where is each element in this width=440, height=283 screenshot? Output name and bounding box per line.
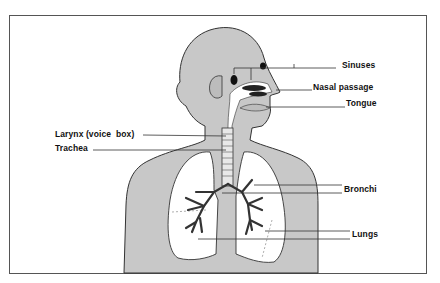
nasal-turbinate — [242, 85, 266, 91]
nasal-turbinate — [249, 92, 267, 97]
label-lungs: Lungs — [352, 229, 378, 239]
label-nasal-passage: Nasal passage — [313, 82, 373, 92]
label-sinuses: Sinuses — [342, 60, 375, 70]
sinus — [231, 75, 238, 85]
sinus — [260, 63, 266, 70]
respiratory-illustration — [0, 0, 440, 283]
label-trachea: Trachea — [55, 143, 88, 153]
trachea-shape — [222, 128, 233, 186]
label-bronchi: Bronchi — [344, 184, 377, 194]
label-larynx: Larynx (voice box) — [55, 129, 134, 139]
label-tongue: Tongue — [346, 98, 377, 108]
